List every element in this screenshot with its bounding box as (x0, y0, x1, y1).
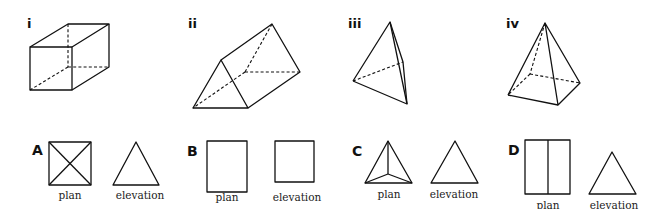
solid-ii-triangular-prism (193, 24, 300, 108)
view-B-plan (207, 141, 247, 192)
view-C-plan (365, 141, 412, 183)
view-D-elevation (589, 152, 636, 194)
view-A-plan (49, 142, 91, 185)
diagram-canvas (0, 0, 658, 209)
view-C-elevation (431, 141, 478, 183)
solid-iv-square-pyramid (508, 23, 580, 105)
solid-iii-triangular-pyramid (353, 22, 407, 104)
solid-i-cuboid (30, 24, 109, 90)
view-B-elevation (275, 141, 314, 182)
view-A-elevation (113, 142, 159, 185)
view-D-plan (525, 140, 570, 194)
